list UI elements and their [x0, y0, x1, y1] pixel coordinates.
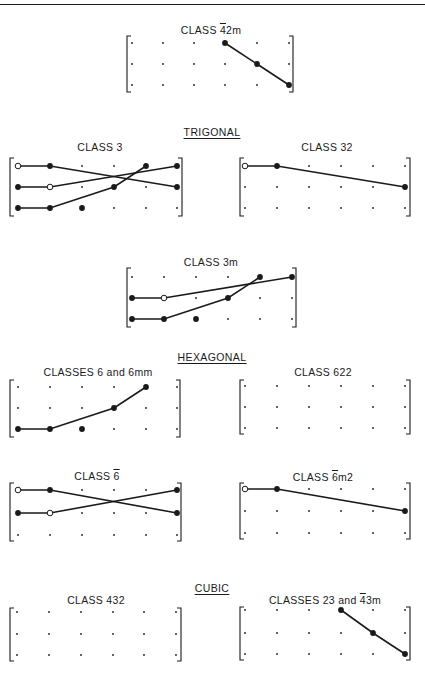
small-dot-icon: [48, 611, 50, 613]
section-header-trigonal: TRIGONAL: [184, 126, 241, 138]
small-dot-icon: [244, 510, 246, 512]
small-dot-icon: [162, 42, 164, 44]
small-dot-icon: [372, 653, 374, 655]
small-dot-icon: [372, 186, 374, 188]
filled-circle-icon: [15, 205, 21, 211]
small-dot-icon: [340, 427, 342, 429]
small-dot-icon: [244, 406, 246, 408]
small-dot-icon: [143, 633, 145, 635]
small-dot-icon: [308, 653, 310, 655]
small-dot-icon: [16, 611, 18, 613]
filled-circle-icon: [161, 316, 167, 322]
small-dot-icon: [276, 532, 278, 534]
small-dot-icon: [244, 632, 246, 634]
small-dot-icon: [81, 534, 83, 536]
small-dot-icon: [404, 385, 406, 387]
small-dot-icon: [340, 532, 342, 534]
small-dot-icon: [291, 297, 293, 299]
small-dot-icon: [113, 165, 115, 167]
small-dot-icon: [308, 406, 310, 408]
small-dot-icon: [404, 406, 406, 408]
open-circle-icon: [47, 510, 53, 516]
filled-circle-icon: [47, 205, 53, 211]
small-dot-icon: [49, 407, 51, 409]
small-dot-icon: [131, 63, 133, 65]
small-dot-icon: [276, 207, 278, 209]
small-dot-icon: [175, 654, 177, 656]
small-dot-icon: [244, 427, 246, 429]
small-dot-icon: [143, 654, 145, 656]
connection-line: [132, 277, 292, 298]
small-dot-icon: [340, 406, 342, 408]
filled-circle-icon: [174, 487, 180, 493]
small-dot-icon: [176, 534, 178, 536]
small-dot-icon: [372, 532, 374, 534]
small-dot-icon: [131, 42, 133, 44]
connection-line: [18, 490, 177, 513]
matrix-class-32: [240, 158, 410, 216]
small-dot-icon: [404, 165, 406, 167]
diagram-title-class-4bar2m: CLASS 42m: [181, 24, 241, 36]
diagram-canvas: [0, 0, 425, 678]
small-dot-icon: [372, 165, 374, 167]
filled-circle-icon: [274, 486, 280, 492]
title-prefix: CLASS: [293, 471, 332, 483]
small-dot-icon: [404, 427, 406, 429]
small-dot-icon: [17, 386, 19, 388]
left-bracket: [10, 608, 14, 661]
small-dot-icon: [145, 489, 147, 491]
filled-circle-icon: [225, 295, 231, 301]
small-dot-icon: [288, 42, 290, 44]
small-dot-icon: [113, 428, 115, 430]
right-bracket: [177, 608, 181, 661]
diagram-title-class-622: CLASS 622: [294, 366, 352, 378]
small-dot-icon: [48, 654, 50, 656]
title-prefix: CLASS: [74, 470, 113, 482]
left-bracket: [10, 158, 14, 216]
small-dot-icon: [176, 428, 178, 430]
title-suffix: m2: [338, 471, 353, 483]
small-dot-icon: [81, 165, 83, 167]
small-dot-icon: [162, 63, 164, 65]
small-dot-icon: [175, 611, 177, 613]
small-dot-icon: [308, 510, 310, 512]
small-dot-icon: [176, 386, 178, 388]
small-dot-icon: [16, 654, 18, 656]
small-dot-icon: [276, 632, 278, 634]
small-dot-icon: [145, 512, 147, 514]
filled-circle-icon: [402, 184, 408, 190]
small-dot-icon: [112, 633, 114, 635]
small-dot-icon: [372, 427, 374, 429]
small-dot-icon: [244, 609, 246, 611]
filled-circle-icon: [402, 651, 408, 657]
small-dot-icon: [145, 407, 147, 409]
matrix-class-3: [10, 158, 182, 216]
small-dot-icon: [113, 386, 115, 388]
filled-circle-icon: [15, 426, 21, 432]
small-dot-icon: [340, 186, 342, 188]
filled-circle-icon: [174, 163, 180, 169]
open-circle-icon: [161, 295, 167, 301]
small-dot-icon: [340, 653, 342, 655]
matrix-class-23-4bar3m: [240, 607, 410, 660]
title-prefix: CLASSES 23 and: [269, 594, 360, 606]
filled-circle-icon: [47, 487, 53, 493]
small-dot-icon: [340, 510, 342, 512]
matrix-class-432: [10, 608, 181, 661]
small-dot-icon: [308, 385, 310, 387]
connection-line: [18, 490, 177, 513]
small-dot-icon: [404, 488, 406, 490]
filled-circle-icon: [286, 82, 292, 88]
filled-circle-icon: [289, 274, 295, 280]
small-dot-icon: [145, 207, 147, 209]
small-dot-icon: [112, 611, 114, 613]
small-dot-icon: [195, 276, 197, 278]
small-dot-icon: [227, 276, 229, 278]
filled-circle-icon: [174, 510, 180, 516]
open-circle-icon: [15, 487, 21, 493]
small-dot-icon: [244, 207, 246, 209]
small-dot-icon: [308, 609, 310, 611]
small-dot-icon: [80, 611, 82, 613]
filled-circle-icon: [129, 295, 135, 301]
filled-circle-icon: [15, 184, 21, 190]
